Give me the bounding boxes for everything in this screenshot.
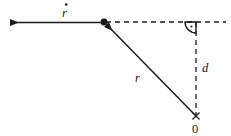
junction-point-marker [101,19,108,26]
distance-label-text: d [202,61,209,75]
right-angle-marker [185,22,196,33]
velocity-label: r [62,3,67,20]
origin-label-text: 0 [192,122,198,136]
radius-label-text: r [135,71,140,85]
diagram-canvas: r r d 0 [0,0,231,136]
vector-diagram: r r d 0 [0,0,231,136]
radius-vector-arrow [107,25,196,116]
velocity-overdot-icon [65,3,68,6]
velocity-label-text: r [62,6,67,20]
